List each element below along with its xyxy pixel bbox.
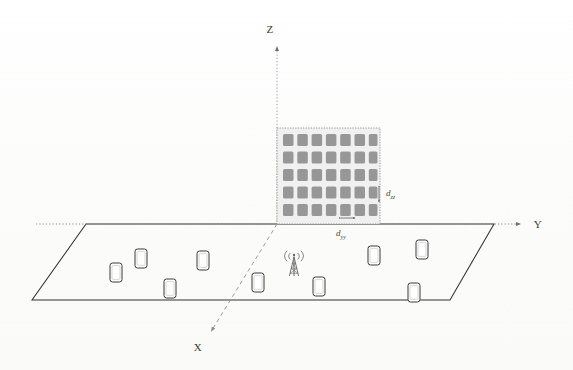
antenna-element [312,134,323,146]
tower-beacon [293,254,295,256]
signal-wave-right-inner [298,253,300,259]
antenna-element [340,187,351,199]
signal-wave-left-outer [285,251,288,262]
list-item [252,273,264,292]
antenna-element [297,169,308,181]
antenna-element [340,204,351,216]
z-axis-label: Z [266,23,273,35]
antenna-element [326,134,337,146]
antenna-element [326,204,337,216]
antenna-element [297,134,308,146]
antenna-element [369,187,378,199]
antenna-element [312,169,323,181]
antenna-element [369,204,378,216]
antenna-element [340,169,351,181]
antenna-element [355,187,366,199]
x-axis-group: X [194,224,277,353]
antenna-element [297,187,308,199]
antenna-element [326,169,337,181]
antenna-element [355,169,366,181]
signal-wave-left-inner [289,253,291,259]
antenna-element [340,134,351,146]
list-item [313,277,325,296]
list-item [368,246,380,265]
antenna-element [355,152,366,164]
antenna-array-group [277,128,380,224]
antenna-element [283,204,294,216]
list-item [135,249,147,268]
system-model-diagram: Y Z X [0,0,573,370]
figure-canvas: Y Z X [0,0,573,370]
antenna-element [283,169,294,181]
z-axis-group: Z [266,23,277,224]
d-yy-label: dyy [336,228,346,240]
antenna-element [312,204,323,216]
antenna-element [283,134,294,146]
antenna-element [355,204,366,216]
signal-wave-right-outer [301,251,304,262]
list-item [164,279,176,298]
antenna-element [297,152,308,164]
antenna-element [355,134,366,146]
x-axis-label: X [194,341,202,353]
x-axis-line [212,224,277,330]
list-item [416,240,428,259]
antenna-element [283,152,294,164]
antenna-element [369,169,378,181]
antenna-element [312,187,323,199]
base-station-tower [285,251,304,276]
vertical-spacing-indicator: dzz [379,188,396,202]
antenna-element [369,152,378,164]
antenna-element [326,152,337,164]
antenna-element [369,134,378,146]
antenna-element [340,152,351,164]
antenna-element [312,152,323,164]
d-zz-label: dzz [386,188,396,200]
antenna-element [283,187,294,199]
list-item [408,283,420,302]
list-item [197,251,209,270]
y-axis-label: Y [534,218,542,230]
antenna-element [326,187,337,199]
antenna-element [297,204,308,216]
list-item [110,263,122,282]
user-equipment-group [110,240,428,302]
